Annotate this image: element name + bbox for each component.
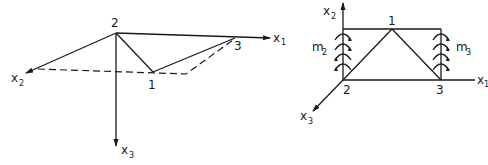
svg-text:x: x: [11, 71, 18, 85]
left-x3-label: x 3: [121, 143, 134, 160]
svg-text:2: 2: [331, 12, 336, 21]
svg-text:3: 3: [129, 151, 134, 160]
right-member-1-3: [392, 29, 441, 80]
svg-text:2: 2: [19, 79, 24, 88]
right-x2-label: x 2: [323, 4, 336, 21]
svg-text:2: 2: [322, 48, 327, 57]
right-x3-label: x 3: [300, 109, 313, 126]
svg-text:1: 1: [484, 80, 488, 89]
left-x2-axis: [26, 33, 116, 73]
left-member-1-3: [153, 38, 235, 72]
svg-text:1: 1: [281, 38, 286, 47]
figure-canvas: 2 1 3 x 1 x 2 x 3: [0, 0, 488, 165]
spring-m2-label: m 2: [312, 40, 327, 57]
svg-text:x: x: [121, 143, 128, 157]
svg-text:x: x: [300, 109, 307, 123]
left-diagram: 2 1 3 x 1 x 2 x 3: [11, 16, 286, 160]
left-x1-label: x 1: [273, 31, 286, 47]
svg-text:3: 3: [466, 48, 471, 57]
left-node-3-label: 3: [234, 39, 242, 53]
svg-text:x: x: [323, 4, 330, 18]
spring-m3-label: m 3: [456, 40, 471, 57]
right-diagram: 1 2 3 m 2 m 3 x 2 x 1 x 3: [300, 3, 488, 126]
right-x1-label: x 1: [477, 73, 488, 89]
right-node-1-label: 1: [388, 14, 396, 28]
left-dashed-projection: [38, 40, 233, 74]
right-node-2-label: 2: [343, 83, 351, 97]
right-node-3-label: 3: [436, 83, 444, 97]
left-node-2-label: 2: [111, 16, 119, 30]
svg-text:x: x: [273, 31, 280, 45]
left-x2-label: x 2: [11, 71, 24, 88]
left-member-2-1: [116, 33, 153, 72]
svg-text:3: 3: [308, 117, 313, 126]
left-node-1-label: 1: [148, 78, 156, 92]
left-x1-axis: [116, 33, 270, 38]
right-member-2-1: [343, 29, 392, 80]
right-x3-axis: [313, 80, 343, 111]
